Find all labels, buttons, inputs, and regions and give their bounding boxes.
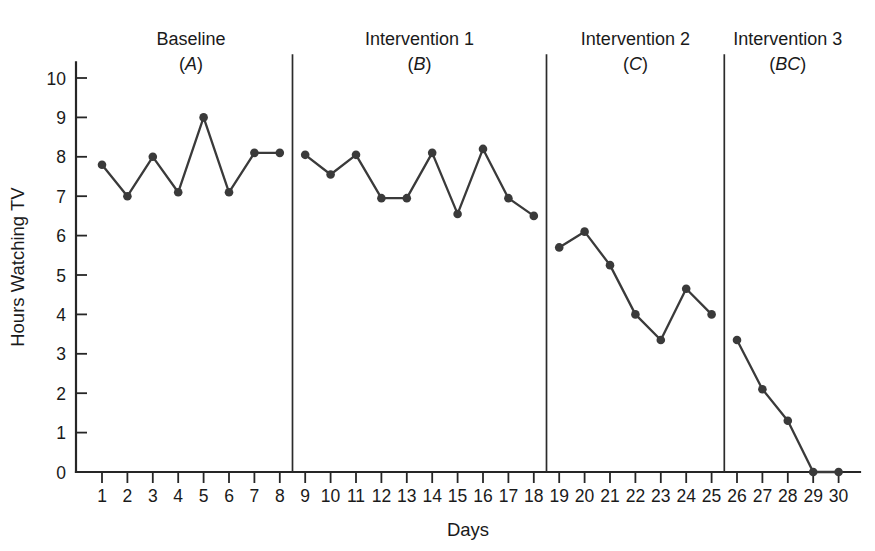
line-chart-svg: 012345678910 123456789101112131415161718… xyxy=(0,0,875,551)
y-tick-label: 0 xyxy=(56,463,66,483)
phase-label: Baseline xyxy=(156,29,225,49)
y-tick-label: 1 xyxy=(56,423,66,443)
y-tick-label: 9 xyxy=(56,108,66,128)
phase-label: Intervention 3 xyxy=(733,29,842,49)
data-point xyxy=(98,160,107,169)
data-point xyxy=(606,261,615,270)
x-tick-label: 23 xyxy=(651,486,670,506)
phase-label: Intervention 2 xyxy=(581,29,690,49)
phase-code-label: (BC) xyxy=(769,54,806,74)
x-tick-label: 7 xyxy=(250,486,260,506)
data-point xyxy=(784,416,793,425)
data-point xyxy=(377,194,386,203)
x-tick-label: 8 xyxy=(275,486,285,506)
x-tick-label: 15 xyxy=(448,486,467,506)
data-point xyxy=(276,149,285,158)
data-point xyxy=(123,192,132,201)
data-point xyxy=(225,188,234,197)
x-tick-label: 30 xyxy=(829,486,849,506)
x-tick-label: 6 xyxy=(224,486,234,506)
phase-code-label: (A) xyxy=(179,54,203,74)
data-point xyxy=(403,194,412,203)
x-tick-label: 21 xyxy=(600,486,619,506)
data-point xyxy=(580,227,589,236)
x-tick-label: 27 xyxy=(753,486,772,506)
data-point xyxy=(682,284,691,293)
x-tick-label: 5 xyxy=(199,486,209,506)
data-point xyxy=(352,151,361,160)
data-point xyxy=(326,170,335,179)
y-tick-label: 7 xyxy=(56,187,66,207)
x-tick-label: 4 xyxy=(173,486,183,506)
axis-lines xyxy=(76,62,860,472)
data-point xyxy=(504,194,513,203)
x-tick-label: 16 xyxy=(473,486,492,506)
phase-code-label: (B) xyxy=(407,54,431,74)
x-tick-label: 10 xyxy=(321,486,341,506)
x-tick-label: 20 xyxy=(575,486,595,506)
x-tick-label: 29 xyxy=(803,486,822,506)
y-tick-label: 10 xyxy=(47,69,67,89)
x-tick-label: 18 xyxy=(524,486,543,506)
phase-label: Intervention 1 xyxy=(365,29,474,49)
x-tick-label: 11 xyxy=(347,486,365,506)
data-point xyxy=(479,145,488,154)
data-point xyxy=(301,151,310,160)
data-point xyxy=(657,336,666,345)
data-point xyxy=(631,310,640,319)
phase-divider-lines xyxy=(293,54,725,472)
x-tick-label: 3 xyxy=(148,486,158,506)
x-tick-label: 9 xyxy=(300,486,310,506)
data-point xyxy=(733,336,742,345)
x-tick-label: 14 xyxy=(422,486,442,506)
y-axis-title: Hours Watching TV xyxy=(7,187,28,347)
x-axis-title: Days xyxy=(447,519,489,540)
series-line xyxy=(737,340,839,472)
y-tick-label: 4 xyxy=(56,305,66,325)
data-point xyxy=(250,149,259,158)
data-point xyxy=(174,188,183,197)
phase-code-label: (C) xyxy=(623,54,648,74)
y-tick-label: 3 xyxy=(56,344,66,364)
x-tick-label: 13 xyxy=(397,486,416,506)
y-axis-ticks: 012345678910 xyxy=(47,69,87,483)
data-point xyxy=(555,243,564,252)
data-point xyxy=(530,212,539,221)
phase-label-group: Baseline(A)Intervention 1(B)Intervention… xyxy=(156,29,842,74)
data-point xyxy=(199,113,208,122)
y-tick-label: 2 xyxy=(56,384,66,404)
data-series-group xyxy=(102,117,839,472)
x-tick-label: 2 xyxy=(123,486,133,506)
x-tick-label: 22 xyxy=(626,486,645,506)
data-point xyxy=(809,468,818,477)
series-line xyxy=(305,149,534,216)
x-tick-label: 25 xyxy=(702,486,721,506)
y-tick-label: 5 xyxy=(56,266,66,286)
data-point xyxy=(707,310,716,319)
data-point xyxy=(758,385,767,394)
y-tick-label: 6 xyxy=(56,226,66,246)
chart-figure: 012345678910 123456789101112131415161718… xyxy=(0,0,875,551)
x-axis-ticks: 1234567891011121314151617181920212223242… xyxy=(97,472,848,506)
y-tick-label: 8 xyxy=(56,147,66,167)
data-point xyxy=(834,468,843,477)
x-tick-label: 26 xyxy=(727,486,746,506)
data-point xyxy=(149,153,158,162)
data-point xyxy=(428,149,437,158)
x-tick-label: 28 xyxy=(778,486,797,506)
data-point-group xyxy=(98,113,843,476)
x-tick-label: 12 xyxy=(372,486,391,506)
x-tick-label: 1 xyxy=(97,486,107,506)
x-tick-label: 17 xyxy=(499,486,518,506)
x-tick-label: 24 xyxy=(676,486,696,506)
x-tick-label: 19 xyxy=(549,486,568,506)
data-point xyxy=(453,210,462,219)
